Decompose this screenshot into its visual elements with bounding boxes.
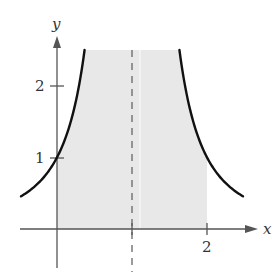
graph: x y 2 1 2: [0, 0, 273, 275]
x-axis-label: x: [263, 220, 272, 238]
y-tick-label-2: 2: [35, 77, 45, 95]
x-axis-arrow-icon: [245, 225, 258, 233]
y-axis-arrow-icon: [53, 36, 61, 48]
y-tick-label-1: 1: [35, 149, 45, 167]
y-axis-label: y: [51, 15, 61, 33]
x-tick-label-2: 2: [202, 238, 212, 256]
